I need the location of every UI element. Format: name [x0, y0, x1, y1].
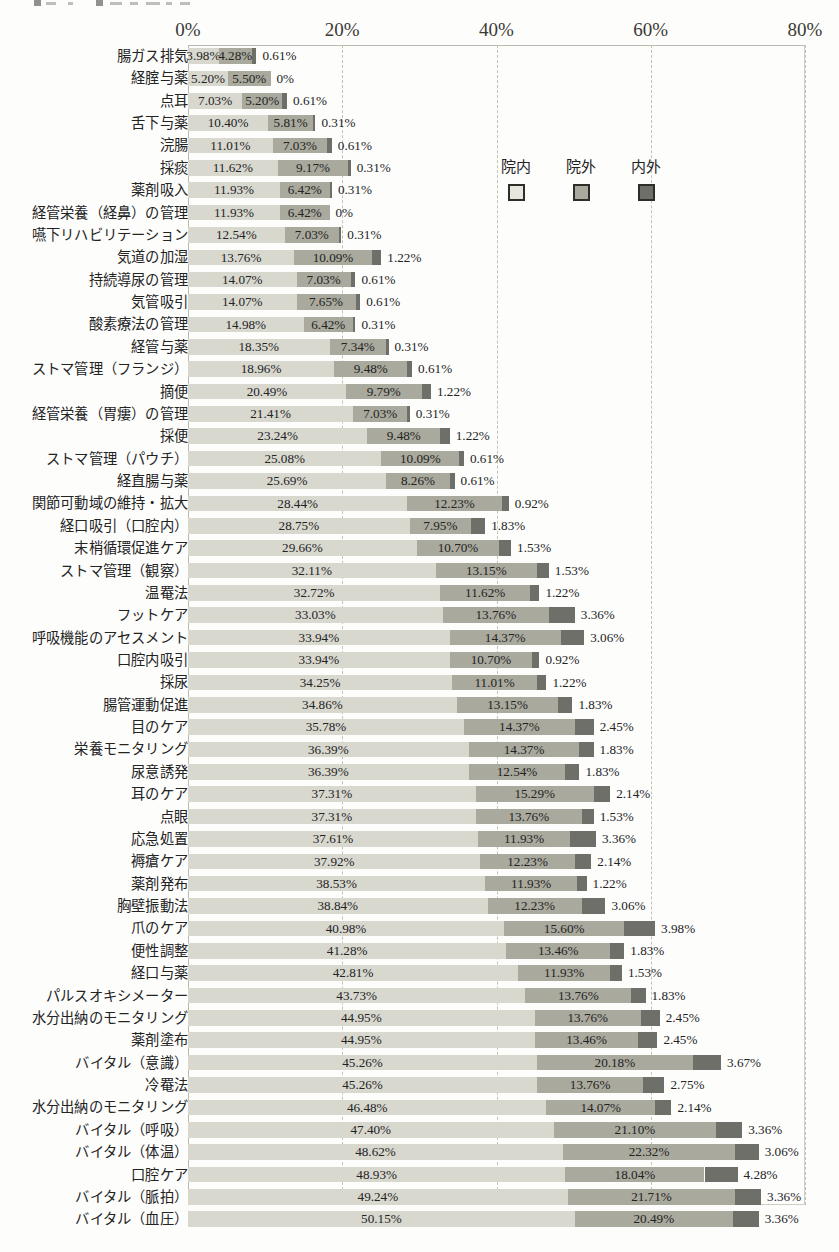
bar-row-label: バイタル（意識） — [0, 1053, 188, 1073]
bar-row-label: 末梢循環促進ケア — [0, 538, 188, 558]
legend-item-both[interactable]: 内外 — [623, 158, 669, 201]
bar-segment-内外 — [532, 652, 539, 668]
bar-segment-value-内外: 3.06% — [765, 1144, 799, 1160]
bar-segment-内外 — [372, 250, 381, 266]
bar-segment-value-院内: 43.73% — [188, 988, 525, 1004]
bar-segment-value-内外: 2.45% — [600, 719, 634, 735]
bar-segment-value-内外: 3.36% — [602, 831, 636, 847]
bar-segment-value-内外: 1.83% — [600, 742, 634, 758]
bar-segment-value-内外: 0.61% — [361, 272, 395, 288]
stacked-bar: 11.93%6.42%0% — [188, 205, 330, 221]
bar-row: バイタル（呼吸）47.40%21.10%3.36% — [0, 1119, 839, 1141]
bar-segment-value-院外: 5.50% — [228, 71, 270, 87]
bar-row: 爪のケア40.98%15.60%3.98% — [0, 917, 839, 939]
bar-segment-内外 — [407, 406, 409, 422]
bar-segment-value-院内: 11.01% — [188, 138, 273, 154]
stacked-bar: 34.25%11.01%1.22% — [188, 675, 546, 691]
bar-row-label: 口腔内吸引 — [0, 650, 188, 670]
bar-row-label: 腸ガス排気 — [0, 46, 188, 66]
bar-segment-内外 — [459, 451, 464, 467]
bar-segment-value-内外: 1.83% — [578, 697, 612, 713]
x-axis-tick-80pct: 80% — [788, 19, 823, 41]
bar-segment-value-院外: 5.81% — [268, 115, 313, 131]
bar-segment-value-内外: 0.61% — [470, 451, 504, 467]
bar-segment-value-院内: 37.31% — [188, 786, 476, 802]
bar-row-label: 口腔ケア — [0, 1165, 188, 1185]
bar-segment-value-内外: 1.22% — [552, 675, 586, 691]
bar-row-label: バイタル（血圧） — [0, 1209, 188, 1229]
bar-row-label: 耳のケア — [0, 784, 188, 804]
bar-segment-value-院内: 45.26% — [188, 1055, 537, 1071]
legend-label: 院外 — [558, 158, 604, 176]
bar-segment-value-内外: 0.31% — [416, 406, 450, 422]
bar-segment-value-院外: 20.49% — [575, 1211, 733, 1227]
bar-segment-value-院外: 11.93% — [485, 876, 577, 892]
bar-segment-value-内外: 0.92% — [545, 652, 579, 668]
bar-segment-value-院外: 14.37% — [464, 719, 575, 735]
bar-segment-value-院内: 7.03% — [188, 93, 242, 109]
stacked-bar: 25.69%8.26%0.61% — [188, 473, 455, 489]
legend-item-in[interactable]: 院内 — [493, 158, 539, 201]
bar-row: 温罨法32.72%11.62%1.22% — [0, 582, 839, 604]
bar-row-label: 採尿 — [0, 672, 188, 692]
bar-segment-value-院内: 21.41% — [188, 406, 353, 422]
bar-segment-内外 — [693, 1055, 721, 1071]
bar-row-label: 経腟与薬 — [0, 68, 188, 88]
bar-segment-value-院外: 13.76% — [443, 607, 549, 623]
stacked-bar: 32.11%13.15%1.53% — [188, 563, 549, 579]
bar-segment-value-院内: 50.15% — [188, 1211, 575, 1227]
bar-row: 嚥下リハビリテーション12.54%7.03%0.31% — [0, 224, 839, 246]
bar-row-label: パルスオキシメーター — [0, 986, 188, 1006]
bar-segment-value-院外: 13.76% — [537, 1077, 643, 1093]
bar-segment-value-院外: 13.15% — [457, 697, 558, 713]
bar-row: 水分出納のモニタリング44.95%13.76%2.45% — [0, 1007, 839, 1029]
bar-row: 経管栄養（経鼻）の管理11.93%6.42%0% — [0, 202, 839, 224]
bar-row: ストマ管理（フランジ）18.96%9.48%0.61% — [0, 358, 839, 380]
bar-row: 経管栄養（胃瘻）の管理21.41%7.03%0.31% — [0, 403, 839, 425]
bar-row: 応急処置37.61%11.93%3.36% — [0, 828, 839, 850]
bar-segment-value-内外: 0.61% — [461, 473, 495, 489]
stacked-bar: 35.78%14.37%2.45% — [188, 719, 594, 735]
bar-segment-value-内外: 3.36% — [748, 1122, 782, 1138]
stacked-bar: 21.41%7.03%0.31% — [188, 406, 410, 422]
stacked-bar: 33.94%14.37%3.06% — [188, 630, 584, 646]
bar-segment-value-院内: 32.11% — [188, 563, 436, 579]
bar-segment-内外 — [313, 115, 315, 131]
bar-row: 舌下与薬10.40%5.81%0.31% — [0, 112, 839, 134]
bar-segment-value-院外: 6.42% — [304, 317, 354, 333]
x-axis-tick-20pct: 20% — [325, 19, 360, 41]
bar-segment-value-内外: 3.06% — [590, 630, 624, 646]
bar-segment-value-内外: 1.53% — [628, 965, 662, 981]
bar-segment-value-内外: 1.83% — [585, 764, 619, 780]
bar-segment-value-院外: 7.34% — [330, 339, 387, 355]
bar-row-label: フットケア — [0, 605, 188, 625]
legend-item-out[interactable]: 院外 — [558, 158, 604, 201]
bar-segment-value-内外: 1.53% — [555, 563, 589, 579]
stacked-bar: 25.08%10.09%0.61% — [188, 451, 464, 467]
stacked-bar: 28.44%12.23%0.92% — [188, 496, 509, 512]
bar-row-label: 水分出納のモニタリング — [0, 1008, 188, 1028]
stacked-bar: 7.03%5.20%0.61% — [188, 93, 287, 109]
bar-row: 腸ガス排気3.98%4.28%0.61% — [0, 45, 839, 67]
bar-segment-内外 — [440, 428, 449, 444]
bar-segment-value-内外: 0% — [277, 71, 295, 87]
bar-segment-value-院内: 44.95% — [188, 1010, 535, 1026]
bar-row: 浣腸11.01%7.03%0.61% — [0, 134, 839, 156]
bar-segment-value-院内: 36.39% — [188, 742, 469, 758]
bar-segment-value-院外: 7.95% — [410, 518, 471, 534]
stacked-bar: 48.93%18.04%4.28% — [188, 1167, 738, 1183]
bar-row: ストマ管理（パウチ）25.08%10.09%0.61% — [0, 448, 839, 470]
bar-row-label: 便性調整 — [0, 941, 188, 961]
stacked-bar: 50.15%20.49%3.36% — [188, 1211, 759, 1227]
bar-segment-内外 — [471, 518, 485, 534]
bar-segment-内外 — [537, 563, 549, 579]
bar-segment-内外 — [561, 630, 585, 646]
bar-segment-value-院外: 7.65% — [297, 294, 356, 310]
bar-segment-内外 — [655, 1100, 672, 1116]
bar-segment-内外 — [530, 585, 539, 601]
bar-row-label: 温罨法 — [0, 583, 188, 603]
bar-segment-内外 — [735, 1144, 759, 1160]
bar-row: 胸壁振動法38.84%12.23%3.06% — [0, 895, 839, 917]
stacked-bar: 48.62%22.32%3.06% — [188, 1144, 759, 1160]
bar-row-label: 水分出納のモニタリング — [0, 1097, 188, 1117]
